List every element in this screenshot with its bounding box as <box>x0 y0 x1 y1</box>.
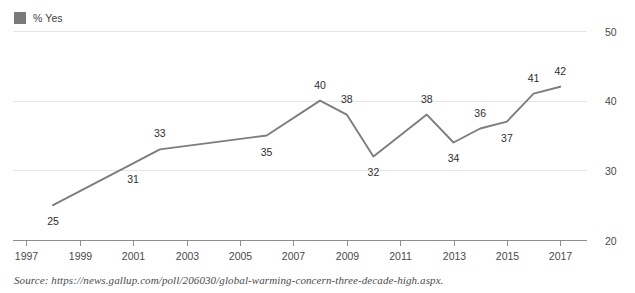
x-axis-tick-label: 2007 <box>282 250 306 262</box>
data-point-label: 37 <box>501 132 513 144</box>
data-point-label: 34 <box>448 152 460 164</box>
y-axis-tick-label: 20 <box>605 235 617 247</box>
data-point-label: 38 <box>341 93 353 105</box>
y-axis-tick-label: 50 <box>605 26 617 38</box>
data-point-label: 33 <box>154 127 166 139</box>
x-axis-tick-label: 1999 <box>69 250 93 262</box>
x-axis-tick-label: 2015 <box>496 250 520 262</box>
x-axis-tick-label: 2017 <box>549 250 573 262</box>
data-point-label: 36 <box>474 107 486 119</box>
x-axis-tick-label: 1997 <box>15 250 39 262</box>
y-axis-tick-label: 40 <box>605 95 617 107</box>
data-point-label: 38 <box>421 93 433 105</box>
data-point-labels: 25313335403832383436374142 <box>47 65 566 227</box>
data-point-label: 31 <box>127 173 139 185</box>
data-point-label: 25 <box>47 215 59 227</box>
data-point-label: 41 <box>528 72 540 84</box>
y-axis-labels: 20304050 <box>605 26 617 247</box>
data-point-label: 35 <box>261 146 273 158</box>
data-point-label: 40 <box>314 79 326 91</box>
x-axis-tick-label: 2011 <box>389 250 412 262</box>
y-axis-tick-label: 30 <box>605 165 617 177</box>
x-axis-tick-label: 2001 <box>122 250 146 262</box>
x-axis-tick-label: 2013 <box>443 250 467 262</box>
x-axis-tick-label: 2009 <box>336 250 360 262</box>
source-note: Source: https://news.gallup.com/poll/206… <box>14 274 443 286</box>
data-point-label: 32 <box>368 166 380 178</box>
x-axis-tick-label: 2005 <box>229 250 253 262</box>
data-point-label: 42 <box>554 65 566 77</box>
series-line-pct-yes <box>53 87 560 205</box>
line-chart: 1997199920012003200520072009201120132015… <box>0 0 635 272</box>
chart-svg: 1997199920012003200520072009201120132015… <box>0 0 635 272</box>
x-axis-labels: 1997199920012003200520072009201120132015… <box>15 250 573 262</box>
x-axis-tick-label: 2003 <box>176 250 200 262</box>
